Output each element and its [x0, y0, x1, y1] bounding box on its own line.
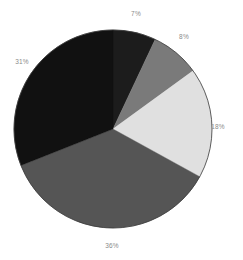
pie-slice-label: 7%	[131, 10, 141, 18]
pie-slice-label: 36%	[105, 242, 119, 250]
pie-slice-label: 31%	[15, 58, 29, 66]
pie-chart: 7%8%18%36%31%	[0, 0, 243, 260]
pie-slice-label: 8%	[179, 33, 189, 41]
pie-slice-label: 18%	[211, 123, 225, 131]
pie-chart-svg	[0, 0, 243, 260]
pie-slice-group	[14, 30, 212, 228]
